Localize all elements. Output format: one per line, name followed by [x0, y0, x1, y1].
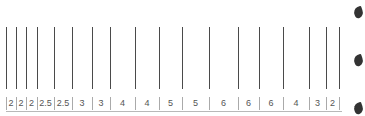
vertical-line	[110, 27, 111, 89]
spacing-label: 2.5	[54, 96, 72, 110]
vertical-line	[309, 27, 310, 89]
vertical-line	[26, 27, 27, 89]
vertical-line	[209, 27, 210, 89]
vertical-line	[259, 27, 260, 89]
spacing-label: 4	[135, 96, 159, 110]
vertical-line	[54, 27, 55, 89]
vertical-line	[238, 27, 239, 89]
vertical-line	[72, 27, 73, 89]
spacing-label: 2	[26, 96, 37, 110]
spacing-label: 2	[16, 96, 26, 110]
spacing-label: 4	[110, 96, 135, 110]
leaf-mark-icon	[352, 54, 364, 67]
vertical-line	[283, 27, 284, 89]
spacing-label: 6	[259, 96, 283, 110]
spacing-label: 4	[283, 96, 309, 110]
spacing-label: 6	[209, 96, 238, 110]
spacing-label: 3	[92, 96, 110, 110]
vertical-line	[339, 27, 340, 89]
vertical-line	[159, 27, 160, 89]
spacing-label: 5	[159, 96, 182, 110]
vertical-line	[37, 27, 38, 89]
vertical-line	[135, 27, 136, 89]
leaf-mark-icon	[352, 102, 364, 115]
spacing-label: 3	[72, 96, 92, 110]
vertical-line	[16, 27, 17, 89]
spacing-label-strip: 2222.52.5334455666432	[6, 96, 342, 112]
spacing-label: 3	[309, 96, 326, 110]
segment-divider	[339, 97, 340, 110]
spacing-label: 2	[326, 96, 339, 110]
vertical-line	[182, 27, 183, 89]
spacing-label: 2	[6, 96, 16, 110]
spacing-label: 2.5	[37, 96, 54, 110]
spacing-label: 6	[238, 96, 259, 110]
vertical-line	[6, 27, 7, 89]
vertical-line	[326, 27, 327, 89]
leaf-mark-icon	[352, 6, 364, 19]
vertical-line	[92, 27, 93, 89]
spacing-label: 5	[182, 96, 209, 110]
